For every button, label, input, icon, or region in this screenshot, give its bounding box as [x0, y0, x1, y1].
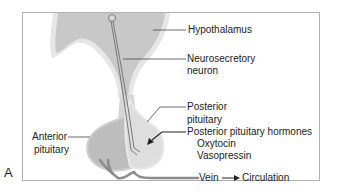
label-hormones-title: Posterior pituitary hormones	[187, 126, 312, 138]
label-anterior-2: pituitary	[34, 144, 69, 156]
pituitary-diagram	[0, 0, 337, 193]
posterior-pituitary	[125, 100, 163, 169]
label-posterior-1: Posterior	[187, 101, 227, 113]
panel-letter: A	[4, 165, 13, 180]
label-hypothalamus: Hypothalamus	[188, 24, 252, 36]
label-circulation: Circulation	[242, 172, 289, 184]
label-anterior-1: Anterior	[32, 131, 67, 143]
label-neurosecretory-2: neuron	[187, 65, 218, 77]
label-neurosecretory-1: Neurosecretory	[187, 53, 255, 65]
label-vein: Vein	[199, 172, 218, 184]
label-vasopressin: Vasopressin	[197, 150, 251, 162]
label-posterior-2: pituitary	[187, 114, 222, 126]
neuron-cell-body	[109, 15, 116, 22]
posterior-leader	[147, 107, 186, 122]
label-oxytocin: Oxytocin	[197, 138, 236, 150]
